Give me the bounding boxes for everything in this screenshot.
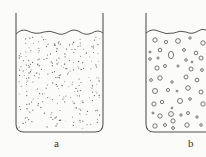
diagram: a b (0, 0, 206, 157)
beaker-a (16, 13, 103, 132)
beaker-b-label: b (188, 138, 194, 149)
beaker-b-liquid-surface (146, 29, 206, 33)
beaker-a-particles (18, 36, 100, 128)
beaker-a-label: a (54, 138, 59, 149)
beaker-b (146, 13, 206, 132)
beaker-b-outline (146, 13, 206, 132)
beaker-a-liquid-surface (16, 30, 103, 34)
beaker-b-bubbles (149, 37, 206, 130)
